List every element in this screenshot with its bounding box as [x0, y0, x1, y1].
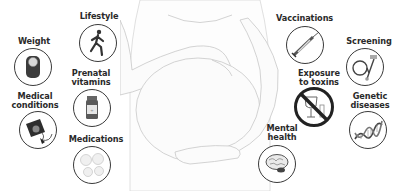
label-genetic-diseases: Genetic diseases [346, 92, 394, 110]
prenatal-vitamins-circle: + [73, 89, 111, 127]
label-exposure-to-toxins: Exposure to toxins [291, 69, 347, 87]
label-vaccinations: Vaccinations [276, 14, 332, 23]
syringe-icon [287, 27, 323, 63]
label-lifestyle: Lifestyle [78, 12, 120, 21]
tablets-icon [74, 147, 110, 183]
label-screening: Screening [343, 37, 395, 46]
exposure-to-toxins-circle [294, 87, 334, 127]
medical-conditions-circle [19, 111, 57, 149]
lifestyle-circle [79, 24, 117, 62]
no-alcohol-icon [297, 90, 331, 124]
screening-circle [346, 48, 384, 86]
medications-circle [73, 146, 111, 184]
svg-text:+: + [90, 108, 93, 113]
blood-pressure-cuff-icon [20, 112, 56, 148]
pill-bottle-icon: + [74, 90, 110, 126]
label-medications: Medications [68, 135, 124, 144]
dna-icon [350, 112, 386, 148]
runner-icon [80, 25, 116, 61]
stethoscope-icon [347, 49, 383, 85]
vaccinations-circle [286, 26, 324, 64]
pregnant-woman-illustration [120, 0, 280, 191]
pregnant-woman-icon [120, 0, 280, 191]
label-weight: Weight [12, 37, 56, 46]
scale-icon [15, 49, 51, 85]
brain-icon [259, 146, 295, 182]
weight-circle [14, 48, 52, 86]
mental-health-circle [258, 145, 296, 183]
label-mental-health: Mental health [262, 124, 302, 142]
label-prenatal-vitamins: Prenatal vitamins [68, 69, 114, 87]
genetic-diseases-circle [349, 111, 387, 149]
label-medical-conditions: Medical conditions [6, 92, 64, 110]
